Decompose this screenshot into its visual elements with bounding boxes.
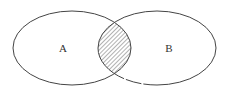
set-b-label: B bbox=[165, 42, 172, 54]
venn-diagram: A B bbox=[0, 0, 226, 90]
set-a-label: A bbox=[59, 42, 67, 54]
